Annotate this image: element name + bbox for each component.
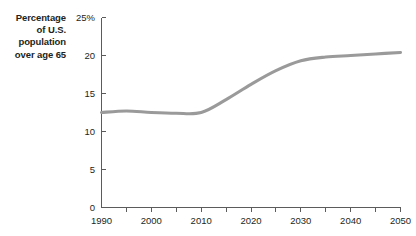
y-tick-label: 5 xyxy=(90,164,95,175)
y-tick-label: 25% xyxy=(76,12,96,23)
x-tick-label: 2010 xyxy=(191,215,212,226)
x-tick-label: 2040 xyxy=(340,215,361,226)
x-axis: 1990200020102020203020402050 xyxy=(91,208,411,226)
line-chart-plot: 0510152025% 1990200020102020203020402050 xyxy=(0,0,416,236)
y-tick-label: 0 xyxy=(90,202,95,213)
data-line-series xyxy=(102,52,401,113)
x-tick-label: 2020 xyxy=(240,215,261,226)
x-tick-label: 2000 xyxy=(141,215,162,226)
x-tick-label: 2050 xyxy=(390,215,411,226)
x-tick-label: 2030 xyxy=(290,215,311,226)
y-tick-label: 10 xyxy=(84,126,95,137)
data-series-group xyxy=(102,52,401,113)
chart-container: Percentage of U.S. population over age 6… xyxy=(0,0,416,236)
y-tick-label: 15 xyxy=(84,88,95,99)
y-tick-label: 20 xyxy=(84,50,95,61)
x-tick-label: 1990 xyxy=(91,215,112,226)
